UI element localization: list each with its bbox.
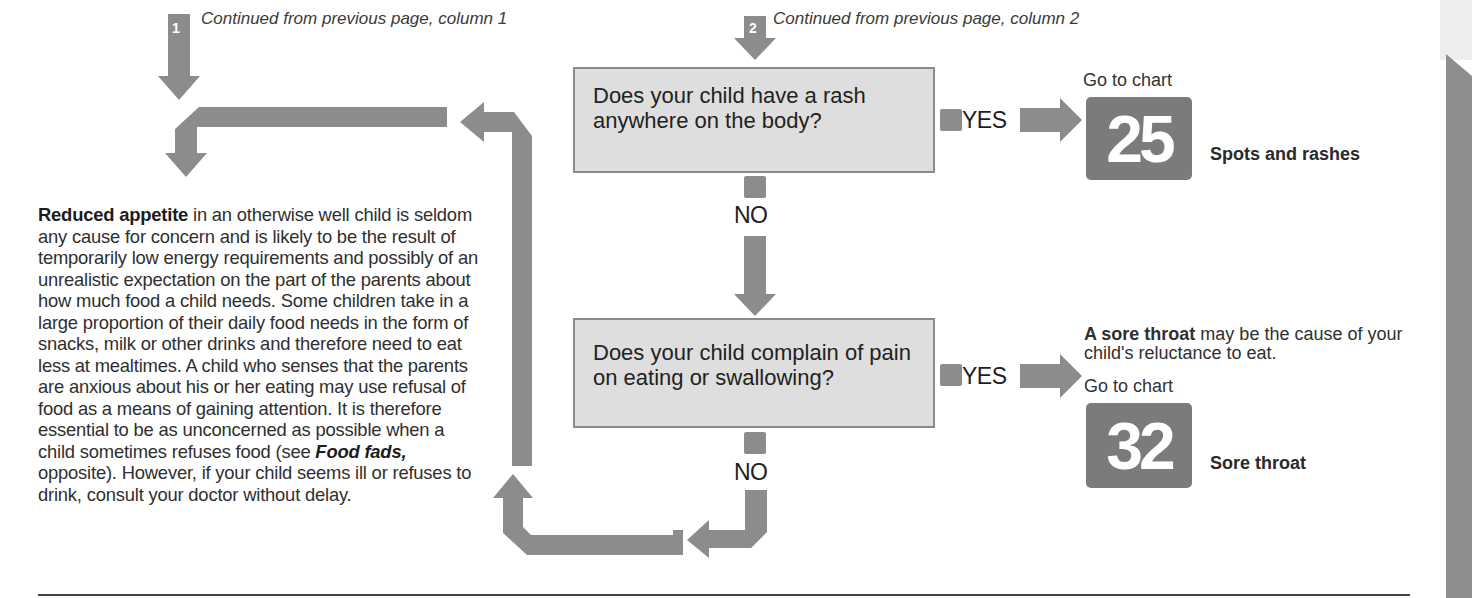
yes-label: YES [962, 363, 1007, 390]
chart-number: 25 [1106, 106, 1171, 172]
paragraph-text: in an otherwise well child is seldom any… [38, 204, 478, 462]
arrow-down-icon [734, 236, 776, 316]
chart-number-badge[interactable]: 32 [1086, 403, 1192, 488]
yes-connector-square [940, 364, 962, 386]
chart-name: Spots and rashes [1210, 144, 1360, 165]
chart-number: 32 [1106, 413, 1171, 479]
paragraph-lead: Reduced appetite [38, 204, 188, 225]
question-box-rash: Does your child have a rash anywhere on … [573, 67, 935, 173]
reduced-appetite-paragraph: Reduced appetite in an otherwise well ch… [38, 204, 483, 505]
note-bold: A sore throat [1084, 324, 1195, 344]
chart-name: Sore throat [1210, 453, 1306, 474]
yes-label: YES [962, 107, 1007, 134]
paragraph-text: opposite). However, if your child seems … [38, 462, 471, 505]
no-connector-square [744, 176, 766, 198]
return-arrow [493, 474, 683, 555]
arrow-right-icon [1020, 354, 1082, 398]
food-fads-reference: Food fads, [315, 441, 406, 462]
question-text: Does your child have a rash anywhere on … [593, 83, 866, 133]
question-box-pain-eating: Does your child complain of pain on eati… [573, 318, 935, 428]
question-text: Does your child complain of pain on eati… [593, 340, 911, 390]
chart-number-badge[interactable]: 25 [1086, 97, 1192, 180]
yes-connector-square [940, 109, 962, 131]
no-label: NO [734, 202, 768, 229]
page-tab-light [1440, 0, 1472, 60]
loop-arrow-top [165, 107, 447, 177]
goto-chart-label: Go to chart [1083, 70, 1172, 91]
continued-col2-text: Continued from previous page, column 2 [773, 9, 1079, 29]
no-connector-square [744, 432, 766, 454]
sore-throat-note: A sore throat may be the cause of your c… [1084, 325, 1424, 363]
page-divider [38, 594, 1410, 596]
page-edge-tab [1446, 54, 1472, 598]
no-arrow-down [687, 490, 767, 558]
no-label: NO [734, 459, 768, 486]
arrow-right-icon [1020, 98, 1082, 142]
connector-badge-1: 1 [172, 20, 180, 36]
connector-badge-2: 2 [749, 20, 757, 36]
continued-col1-text: Continued from previous page, column 1 [201, 9, 507, 29]
goto-chart-label: Go to chart [1084, 376, 1173, 397]
